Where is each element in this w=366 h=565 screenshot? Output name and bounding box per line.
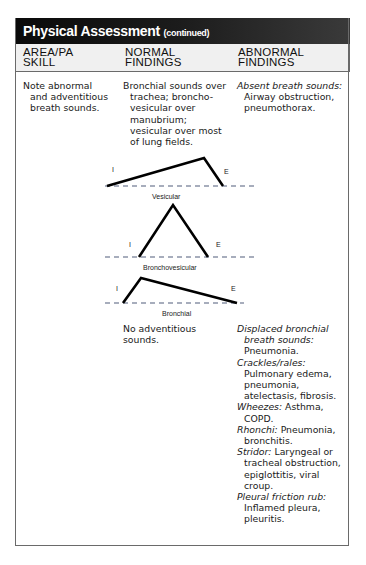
finding-term: Rhonchi:	[237, 424, 278, 435]
finding-term: Wheezes:	[237, 401, 282, 412]
bronchial-expiration-label: E	[231, 285, 236, 292]
abnormal-finding: Stridor: Laryngeal or tracheal obstructi…	[237, 446, 349, 491]
finding-desc: Pulmonary edema, pneumonia, atelectasis,…	[244, 368, 336, 401]
finding-desc: Inflamed pleura, pleuritis.	[244, 502, 320, 524]
abnormal-finding: Crackles/rales: Pulmonary edema, pneumon…	[237, 357, 349, 402]
bronchovesicular-diagram: I E Bronchovesicular	[105, 205, 256, 271]
bronchovesicular-inspiration-label: I	[129, 241, 131, 248]
abnormal-finding: Pleural friction rub: Inflamed pleura, p…	[237, 491, 349, 525]
abnormal-finding: Rhonchi: Pneumonia, bronchitis.	[237, 424, 349, 446]
bronchial-diagram: I E Bronchial	[105, 278, 244, 317]
finding-term: Crackles/rales:	[237, 357, 306, 368]
abnormal-finding: Displaced bronchial breath sounds: Pneum…	[237, 323, 349, 357]
abnormal-finding: Wheezes: Asthma, COPD.	[237, 401, 349, 423]
vesicular-diagram: I E Vesicular	[105, 158, 256, 200]
finding-term: Pleural friction rub:	[237, 491, 326, 502]
vesicular-inspiration-label: I	[112, 166, 114, 173]
vesicular-label: Vesicular	[152, 193, 181, 200]
bronchovesicular-expiration-label: E	[216, 241, 221, 248]
finding-term: Stridor:	[237, 446, 272, 457]
bronchial-label: Bronchial	[162, 310, 192, 317]
abnormal-findings-list-2: Displaced bronchial breath sounds: Pneum…	[237, 323, 349, 525]
bronchial-inspiration-label: I	[116, 285, 118, 292]
vesicular-expiration-label: E	[224, 168, 229, 175]
finding-term: Displaced bronchial breath sounds:	[237, 323, 329, 345]
finding-desc: Pneumonia.	[244, 345, 299, 356]
normal-findings-adventitious: No adventitious sounds.	[123, 323, 233, 345]
bronchovesicular-label: Bronchovesicular	[143, 264, 197, 271]
